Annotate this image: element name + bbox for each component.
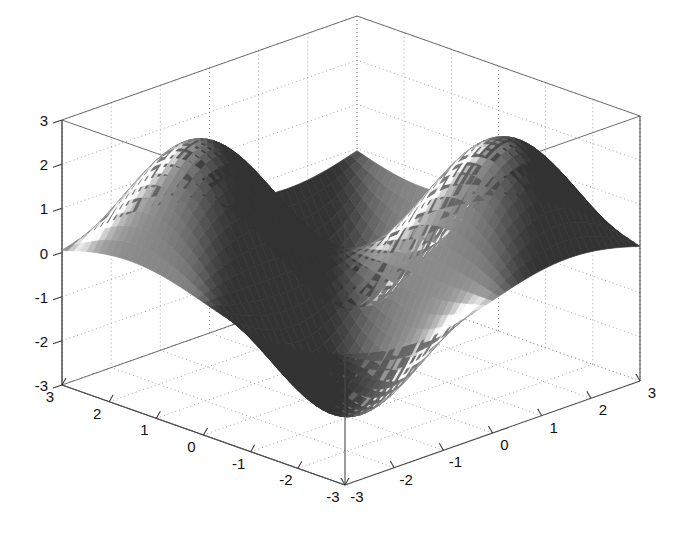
- surface-mesh: [62, 136, 640, 416]
- y-tick: [587, 391, 591, 398]
- y-tick: [538, 409, 542, 416]
- z-tick-label: 2: [40, 156, 48, 173]
- z-tick: [53, 297, 62, 300]
- y-tick: [439, 443, 443, 450]
- x-tick: [109, 395, 113, 402]
- z-tick-label: 3: [40, 112, 48, 129]
- z-tick: [53, 164, 62, 167]
- z-tick: [53, 253, 62, 256]
- x-tick: [204, 428, 208, 435]
- z-tick: [53, 385, 62, 388]
- surface-plot-figure: -3-2-10123-3-2-10123-3-2-10123: [0, 0, 692, 548]
- z-tick: [53, 120, 62, 123]
- z-tick: [53, 341, 62, 344]
- x-tick-label: 2: [93, 405, 101, 422]
- z-tick-label: -1: [35, 289, 48, 306]
- y-tick: [636, 374, 640, 381]
- x-tick-label: -2: [279, 471, 292, 488]
- z-tick-label: -2: [35, 333, 48, 350]
- y-tick-label: 3: [648, 384, 656, 401]
- x-tick: [156, 411, 160, 418]
- plot-canvas: -3-2-10123-3-2-10123-3-2-10123: [0, 0, 692, 548]
- x-tick: [251, 445, 255, 452]
- y-tick-label: -1: [449, 453, 462, 470]
- x-tick-label: -1: [232, 455, 245, 472]
- x-tick-label: 0: [187, 438, 195, 455]
- z-tick-label: 1: [40, 200, 48, 217]
- z-tick: [53, 208, 62, 211]
- y-tick-label: -2: [399, 471, 412, 488]
- z-tick-label: 0: [40, 245, 48, 262]
- y-tick: [390, 461, 394, 468]
- y-tick: [489, 426, 493, 433]
- y-tick-label: 1: [549, 419, 557, 436]
- x-tick-label: 1: [140, 421, 148, 438]
- y-tick-label: -3: [350, 488, 363, 505]
- y-tick-label: 0: [500, 436, 508, 453]
- x-tick-label: -3: [326, 488, 339, 505]
- y-tick-label: 2: [599, 401, 607, 418]
- x-tick: [298, 461, 302, 468]
- x-tick-label: 3: [46, 388, 54, 405]
